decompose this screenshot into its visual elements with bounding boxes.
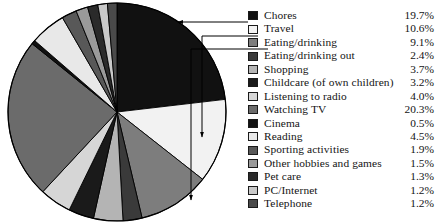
legend-value: 1.9% [396, 143, 434, 156]
legend-label: Shopping [264, 63, 396, 76]
legend-label: Eating/drinking [264, 36, 396, 49]
legend-swatch [248, 11, 258, 20]
legend-label: Childcare (of own children) [264, 76, 396, 89]
legend-label: Cinema [264, 117, 396, 130]
legend-label: Listening to radio [264, 90, 396, 103]
legend-value: 9.1% [396, 36, 434, 49]
legend-value: 19.7% [396, 9, 434, 22]
legend-swatch [248, 92, 258, 101]
legend-row: Reading4.5% [248, 130, 434, 143]
legend-swatch [248, 105, 258, 114]
legend-swatch [248, 199, 258, 208]
legend-row: Watching TV20.3% [248, 103, 434, 116]
legend-row: Telephone1.2% [248, 197, 434, 210]
legend-swatch [248, 159, 258, 168]
legend-label: Reading [264, 130, 396, 143]
legend-value: 0.5% [396, 117, 434, 130]
legend-value: 1.2% [396, 197, 434, 210]
legend-row: Listening to radio4.0% [248, 90, 434, 103]
legend-swatch [248, 186, 258, 195]
legend-value: 3.7% [396, 63, 434, 76]
legend-row: Eating/drinking out2.4% [248, 49, 434, 62]
legend-row: Other hobbies and games1.5% [248, 157, 434, 170]
legend-value: 1.5% [396, 157, 434, 170]
legend-label: Eating/drinking out [264, 49, 396, 62]
legend-row: Cinema0.5% [248, 117, 434, 130]
legend-swatch [248, 132, 258, 141]
legend-label: Travel [264, 22, 396, 35]
chart-legend: Chores19.7%Travel10.6%Eating/drinking9.1… [248, 9, 434, 211]
legend-label: Other hobbies and games [264, 157, 396, 170]
legend-swatch [248, 172, 258, 181]
legend-value: 4.0% [396, 90, 434, 103]
legend-swatch [248, 38, 258, 47]
pie-chart-figure: Chores19.7%Travel10.6%Eating/drinking9.1… [0, 0, 440, 224]
legend-label: Telephone [264, 197, 396, 210]
legend-row: Shopping3.7% [248, 63, 434, 76]
legend-value: 4.5% [396, 130, 434, 143]
legend-swatch [248, 65, 258, 74]
legend-label: PC/Internet [264, 184, 396, 197]
legend-row: Travel10.6% [248, 22, 434, 35]
legend-label: Chores [264, 9, 396, 22]
legend-row: Pet care1.3% [248, 170, 434, 183]
legend-row: Chores19.7% [248, 9, 434, 22]
legend-value: 20.3% [396, 103, 434, 116]
legend-value: 3.2% [396, 76, 434, 89]
legend-label: Sporting activities [264, 143, 396, 156]
legend-label: Watching TV [264, 103, 396, 116]
legend-value: 10.6% [396, 22, 434, 35]
legend-value: 2.4% [396, 49, 434, 62]
legend-swatch [248, 25, 258, 34]
legend-row: PC/Internet1.2% [248, 184, 434, 197]
legend-label: Pet care [264, 170, 396, 183]
legend-swatch [248, 119, 258, 128]
legend-row: Sporting activities1.9% [248, 143, 434, 156]
legend-value: 1.3% [396, 170, 434, 183]
legend-swatch [248, 78, 258, 87]
legend-row: Childcare (of own children)3.2% [248, 76, 434, 89]
legend-swatch [248, 52, 258, 61]
legend-value: 1.2% [396, 184, 434, 197]
legend-row: Eating/drinking9.1% [248, 36, 434, 49]
legend-swatch [248, 146, 258, 155]
